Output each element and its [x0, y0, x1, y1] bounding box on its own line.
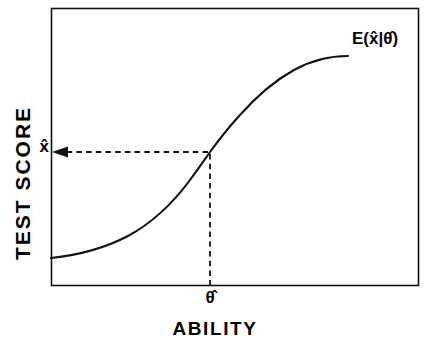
plot-frame: [52, 9, 419, 286]
y-axis-tick-label: x̂: [31, 138, 49, 155]
curve-annotation-label: E(x̂|θ̂): [352, 30, 398, 47]
figure-container: TEST SCORE ABILITY x̂ θ̂ E(x̂|θ̂): [0, 0, 428, 349]
y-axis-title: TEST SCORE: [8, 83, 38, 283]
x-axis-title: ABILITY: [130, 318, 300, 340]
x-axis-tick-label: θ̂: [196, 289, 224, 306]
